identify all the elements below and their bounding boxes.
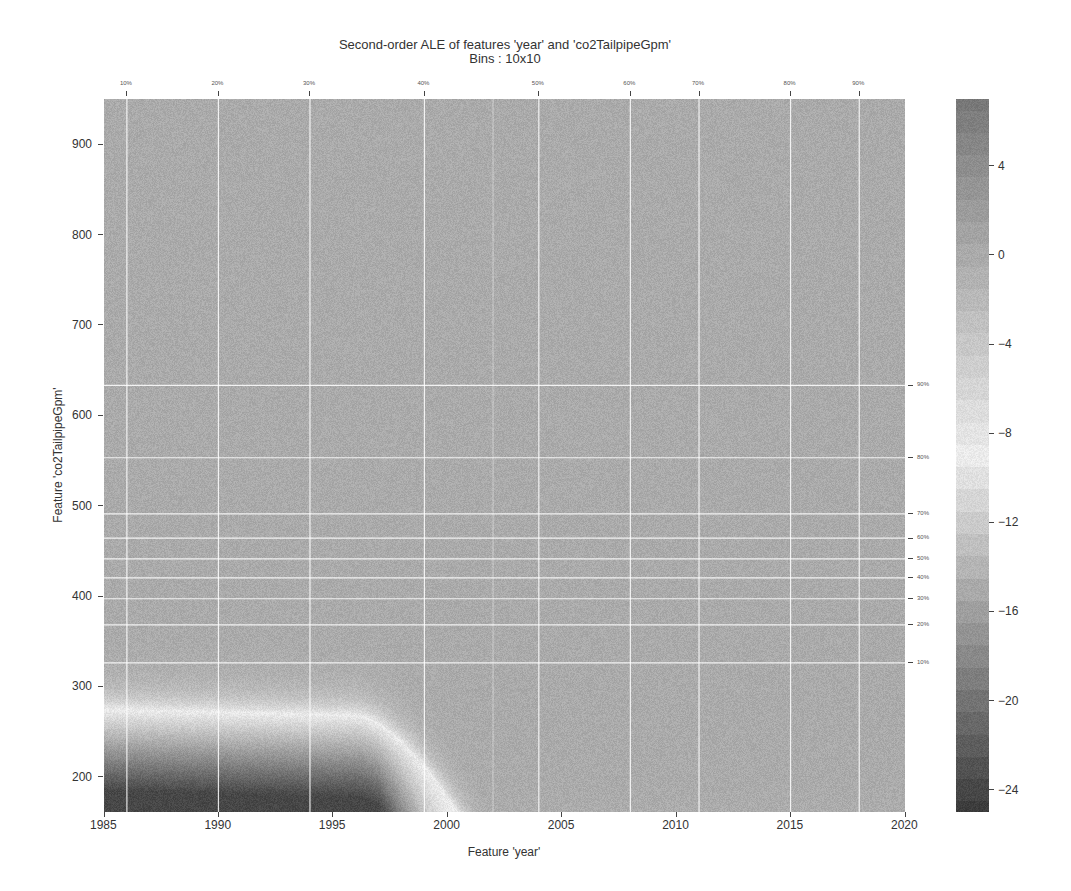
colorbar-tick-label: −16 [998, 604, 1018, 618]
colorbar-tick-label: −12 [998, 515, 1018, 529]
y-percentile-tick [908, 624, 913, 625]
x-percentile-tick [630, 91, 631, 96]
x-tick-label: 1995 [319, 818, 346, 832]
colorbar-tick-label: −4 [998, 337, 1012, 351]
colorbar-tick-mark [989, 789, 994, 790]
x-tick-label: 2015 [777, 818, 804, 832]
y-percentile-tick [908, 513, 913, 514]
x-percentile-label: 40% [417, 80, 429, 86]
y-axis-label: Feature 'co2TailpipeGpm' [51, 387, 65, 522]
x-tick-mark [790, 812, 791, 817]
x-percentile-label: 70% [692, 80, 704, 86]
x-tick-label: 2020 [891, 818, 918, 832]
y-tick-label: 900 [72, 137, 92, 151]
x-tick-label: 1990 [204, 818, 231, 832]
x-tick-label: 2010 [662, 818, 689, 832]
x-percentile-tick [424, 91, 425, 96]
x-percentile-label: 60% [623, 80, 635, 86]
y-percentile-label: 50% [917, 555, 929, 561]
y-percentile-tick [908, 662, 913, 663]
x-axis-label: Feature 'year' [468, 845, 541, 859]
x-percentile-tick [309, 91, 310, 96]
x-tick-mark [218, 812, 219, 817]
x-tick-mark [447, 812, 448, 817]
colorbar-tick-label: −20 [998, 694, 1018, 708]
y-percentile-label: 20% [917, 621, 929, 627]
colorbar-tick-mark [989, 611, 994, 612]
colorbar-tick-mark [989, 344, 994, 345]
colorbar-tick-label: −24 [998, 783, 1018, 797]
y-tick-label: 500 [72, 499, 92, 513]
y-tick-mark [98, 505, 103, 506]
y-tick-label: 800 [72, 228, 92, 242]
y-percentile-label: 10% [917, 659, 929, 665]
y-percentile-tick [908, 385, 913, 386]
x-tick-label: 1985 [90, 818, 117, 832]
colorbar-tick-label: 4 [998, 159, 1005, 173]
y-percentile-tick [908, 558, 913, 559]
y-tick-label: 200 [72, 770, 92, 784]
x-tick-mark [104, 812, 105, 817]
colorbar-tick-label: 0 [998, 248, 1005, 262]
y-tick-label: 400 [72, 589, 92, 603]
colorbar-tick-mark [989, 433, 994, 434]
chart-title-main: Second-order ALE of features 'year' and … [0, 38, 1010, 52]
x-percentile-label: 30% [303, 80, 315, 86]
x-tick-mark [332, 812, 333, 817]
y-percentile-tick [908, 598, 913, 599]
heatmap-plot-area [104, 99, 905, 812]
x-percentile-tick [859, 91, 860, 96]
colorbar-tick-mark [989, 254, 994, 255]
x-percentile-tick [790, 91, 791, 96]
x-percentile-tick [126, 91, 127, 96]
x-tick-mark [676, 812, 677, 817]
y-tick-mark [98, 234, 103, 235]
y-percentile-label: 90% [917, 381, 929, 387]
y-percentile-label: 30% [917, 595, 929, 601]
y-tick-mark [98, 686, 103, 687]
y-tick-mark [98, 144, 103, 145]
ale-heatmap [104, 99, 905, 812]
x-tick-label: 2000 [433, 818, 460, 832]
y-tick-mark [98, 415, 103, 416]
y-tick-label: 600 [72, 408, 92, 422]
x-percentile-label: 10% [120, 80, 132, 86]
y-percentile-tick [908, 538, 913, 539]
y-tick-mark [98, 596, 103, 597]
y-percentile-label: 60% [917, 534, 929, 540]
y-percentile-label: 70% [917, 510, 929, 516]
x-tick-mark [561, 812, 562, 817]
y-percentile-label: 40% [917, 574, 929, 580]
y-percentile-label: 80% [917, 454, 929, 460]
y-tick-mark [98, 776, 103, 777]
y-tick-mark [98, 324, 103, 325]
colorbar-tick-mark [989, 700, 994, 701]
x-tick-label: 2005 [548, 818, 575, 832]
y-percentile-tick [908, 457, 913, 458]
x-percentile-tick [699, 91, 700, 96]
x-percentile-label: 90% [852, 80, 864, 86]
y-tick-label: 700 [72, 318, 92, 332]
colorbar [956, 99, 989, 812]
x-percentile-label: 50% [532, 80, 544, 86]
y-percentile-tick [908, 577, 913, 578]
x-percentile-tick [538, 91, 539, 96]
x-percentile-label: 20% [211, 80, 223, 86]
colorbar-tick-label: −8 [998, 426, 1012, 440]
colorbar-tick-mark [989, 522, 994, 523]
colorbar-tick-mark [989, 165, 994, 166]
x-tick-mark [905, 812, 906, 817]
chart-subtitle: Bins : 10x10 [0, 52, 1010, 66]
x-percentile-tick [218, 91, 219, 96]
chart-title: Second-order ALE of features 'year' and … [0, 38, 1010, 66]
y-tick-label: 300 [72, 679, 92, 693]
x-percentile-label: 80% [784, 80, 796, 86]
